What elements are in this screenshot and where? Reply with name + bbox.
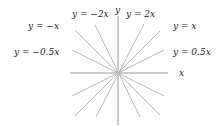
label-y-x: y = x (172, 21, 196, 31)
label-y-neg-0.5x: y = −0.5x (13, 47, 59, 57)
diagram-canvas: y = −2x y = −x y = −0.5x y = 2x y = x y … (0, 0, 224, 126)
label-y-2x: y = 2x (125, 9, 155, 19)
line-family-diagram: y = −2x y = −x y = −0.5x y = 2x y = x y … (0, 0, 224, 126)
label-y-0.5x: y = 0.5x (172, 47, 211, 57)
label-y-neg-x: y = −x (27, 21, 59, 31)
line-y-2x (96, 24, 144, 117)
x-axis-label: x (179, 68, 184, 78)
label-y-neg-2x: y = −2x (71, 9, 109, 19)
y-axis-label: y (114, 5, 121, 15)
